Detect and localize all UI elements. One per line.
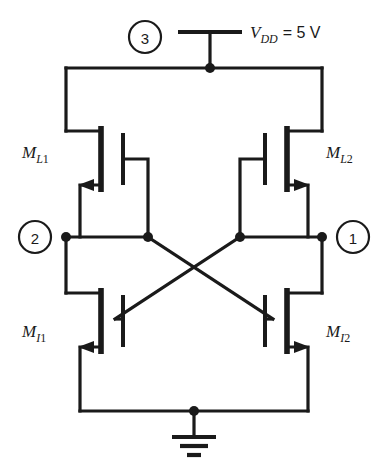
top-supply-rail xyxy=(66,68,322,131)
ml2-label-text: ML2 xyxy=(325,143,353,166)
node-1-label: 1 xyxy=(349,230,357,247)
ml1-gate-wire xyxy=(123,159,148,237)
mi1-label-text: MI1 xyxy=(21,322,46,345)
output-node-row xyxy=(61,232,327,293)
node-2-label: 2 xyxy=(31,230,39,247)
transistor-mi1 xyxy=(66,288,123,411)
node-marker-2: 2 xyxy=(19,221,51,253)
node1-junction-dot xyxy=(317,232,327,242)
ml1-label-num: 1 xyxy=(43,152,49,166)
mi1-label-main: M xyxy=(21,322,37,341)
mi2-label-text: MI2 xyxy=(325,322,350,345)
mi1-source-wire xyxy=(80,347,101,411)
cross-coupling-wires xyxy=(115,237,273,319)
mi2-source-wire xyxy=(287,347,308,411)
circuit-diagram: 3 VDD= 5 V xyxy=(0,0,389,470)
ml1-label-text: ML1 xyxy=(21,143,49,166)
ml2-label-group: ML2 xyxy=(325,143,353,166)
ml2-label-main: M xyxy=(325,143,341,162)
mi2-label-group: MI2 xyxy=(325,322,350,345)
transistor-ml2 xyxy=(240,126,322,237)
node-3-label: 3 xyxy=(141,30,149,47)
transistor-mi2 xyxy=(265,288,322,411)
vdd-label-group: VDD= 5 V xyxy=(250,23,321,46)
bottom-ground-rail xyxy=(80,406,308,436)
cross-wire-left-to-right xyxy=(148,237,273,319)
mi2-label-num: 2 xyxy=(344,331,350,345)
caption-strip xyxy=(0,456,389,470)
mi1-label-group: MI1 xyxy=(21,322,46,345)
ml1-label-group: ML1 xyxy=(21,143,49,166)
ml1-source-wire xyxy=(80,185,101,237)
vdd-label-text: VDD= 5 V xyxy=(250,23,321,46)
vdd-label-value: = 5 V xyxy=(283,24,321,41)
mi2-label-main: M xyxy=(325,322,341,341)
transistor-ml1 xyxy=(66,126,148,237)
ml2-gate-wire xyxy=(240,159,265,237)
ml1-label-main: M xyxy=(21,143,37,162)
cross-wire-right-to-left xyxy=(115,237,240,319)
schematic-svg: 3 VDD= 5 V xyxy=(0,0,389,470)
mi1-label-num: 1 xyxy=(40,331,46,345)
node2-junction-dot xyxy=(61,232,71,242)
node-marker-1: 1 xyxy=(337,221,369,253)
ml2-source-wire xyxy=(287,185,308,237)
ml2-label-num: 2 xyxy=(347,152,353,166)
vdd-label-sub: DD xyxy=(259,32,278,46)
ground-symbol xyxy=(172,437,216,455)
node-marker-3: 3 xyxy=(129,21,161,53)
